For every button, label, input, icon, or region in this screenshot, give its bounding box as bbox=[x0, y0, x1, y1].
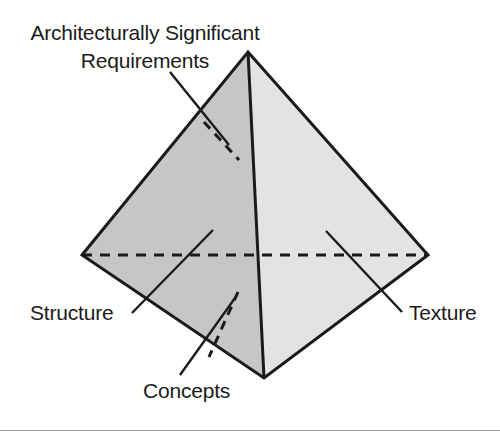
label-texture: Texture bbox=[409, 301, 476, 324]
left-face-structure bbox=[82, 52, 264, 378]
label-structure: Structure bbox=[30, 301, 113, 324]
label-asr-line2: Requirements bbox=[81, 49, 209, 72]
label-asr-line1: Architecturally Significant bbox=[30, 21, 260, 44]
bottom-rule-divider bbox=[0, 430, 500, 431]
label-concepts: Concepts bbox=[143, 379, 230, 402]
tetrahedron-diagram: Architecturally Significant Requirements… bbox=[0, 0, 500, 434]
figure-canvas: Architecturally Significant Requirements… bbox=[0, 0, 500, 434]
right-face-texture bbox=[248, 52, 428, 378]
